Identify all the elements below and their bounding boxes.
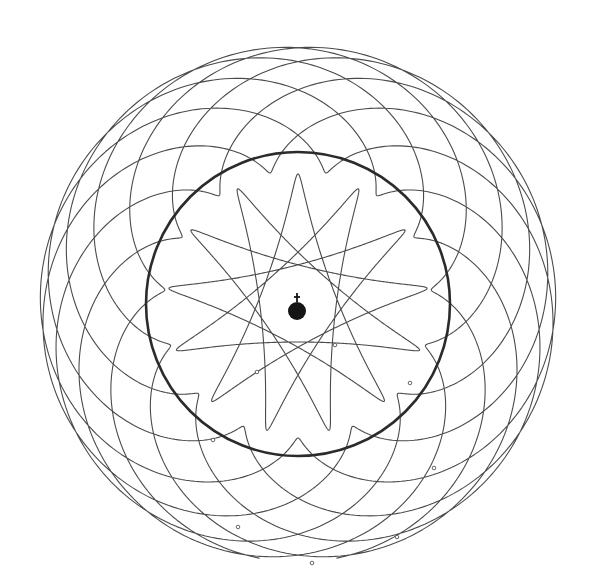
- orbit-diagram: [0, 0, 591, 588]
- path-marker: [255, 370, 259, 374]
- earth-body: [288, 302, 306, 320]
- path-marker: [395, 535, 399, 539]
- earth-icon: [288, 293, 306, 320]
- path-marker: [333, 343, 337, 347]
- path-marker: [408, 381, 412, 385]
- path-marker: [310, 561, 314, 565]
- path-marker: [236, 525, 240, 529]
- path-marker: [432, 466, 436, 470]
- path-marker: [211, 438, 215, 442]
